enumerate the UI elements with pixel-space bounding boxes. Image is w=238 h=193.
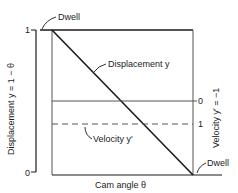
dwell-bottom-label: Dwell xyxy=(207,158,229,168)
dwell-top-leader xyxy=(42,17,56,29)
dwell-top-label: Dwell xyxy=(58,12,80,22)
displacement-label: Displacement y xyxy=(108,59,170,69)
right-tick-0-label: 0 xyxy=(198,96,203,106)
dwell-bottom-leader xyxy=(197,163,206,173)
cam-diagram: 1 0 0 1 Dwell Displacement y Velocity y′… xyxy=(0,0,238,193)
right-tick-minus1-label: 1 xyxy=(198,119,203,129)
left-tick-1: 1 xyxy=(25,25,30,35)
left-tick-0: 0 xyxy=(25,168,30,178)
displacement-line xyxy=(52,30,193,175)
velocity-leader xyxy=(85,127,92,139)
velocity-label: Velocity y′ xyxy=(93,134,133,144)
displacement-leader xyxy=(94,64,106,72)
right-axis-label: Velocity y′ = −1 xyxy=(211,88,221,148)
x-axis-label: Cam angle θ xyxy=(95,180,146,190)
left-axis-label: Displacement y = 1 − θ xyxy=(6,63,16,155)
